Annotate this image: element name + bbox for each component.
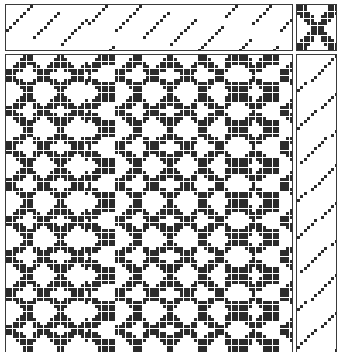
tieup-panel[interactable] [297, 5, 337, 51]
treadling-panel[interactable] [297, 55, 337, 352]
weaving-draft [0, 0, 339, 352]
threading-panel[interactable] [6, 5, 293, 51]
drawdown-panel[interactable] [6, 55, 293, 352]
